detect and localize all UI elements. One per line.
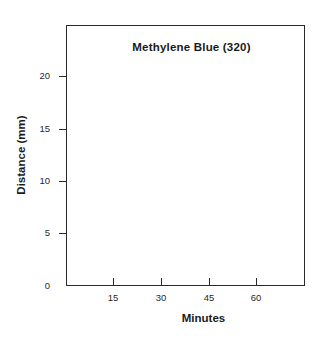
x-tick-mark-60 <box>256 278 257 285</box>
chart-title: Methylene Blue (320) <box>66 41 305 53</box>
y-tick-label-5: 5 <box>30 228 50 238</box>
x-tick-mark-45 <box>209 278 210 285</box>
x-tick-label-30: 30 <box>149 293 173 303</box>
y-tick-mark-15 <box>59 129 66 130</box>
x-tick-label-60: 60 <box>244 293 268 303</box>
y-axis-label: Distance (mm) <box>15 115 27 194</box>
x-tick-label-45: 45 <box>197 293 221 303</box>
y-tick-label-0: 0 <box>30 281 50 291</box>
plot-area <box>66 25 305 286</box>
chart: Methylene Blue (320) Distance (mm) Minut… <box>0 0 321 345</box>
y-tick-mark-20 <box>59 76 66 77</box>
y-tick-label-20: 20 <box>30 71 50 81</box>
x-tick-label-15: 15 <box>101 293 125 303</box>
y-tick-label-10: 10 <box>30 176 50 186</box>
x-axis-label: Minutes <box>66 312 305 324</box>
y-tick-label-15: 15 <box>30 124 50 134</box>
y-tick-mark-5 <box>59 233 66 234</box>
y-tick-mark-10 <box>59 181 66 182</box>
x-tick-mark-15 <box>113 278 114 285</box>
x-tick-mark-30 <box>161 278 162 285</box>
